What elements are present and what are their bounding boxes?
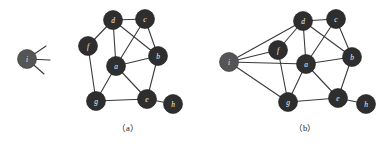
graph-node-b-b[interactable]: b (343, 48, 362, 67)
graph-node-b-h[interactable]: h (357, 95, 376, 114)
graph-node-a-g[interactable]: g (87, 92, 106, 111)
graph-node-a-f[interactable]: f (79, 37, 98, 56)
captions-layer: （a）（b） (117, 123, 316, 133)
node-circle-d[interactable] (294, 12, 313, 31)
graph-node-a-b[interactable]: b (149, 47, 168, 66)
node-circle-i[interactable] (18, 50, 37, 69)
node-circle-e[interactable] (138, 90, 157, 109)
graph-node-b-g[interactable]: g (279, 93, 298, 112)
graph-node-b-i[interactable]: i (220, 53, 239, 72)
graph-node-b-c[interactable]: c (327, 10, 346, 29)
graph-node-a-a[interactable]: a (107, 57, 126, 76)
node-circle-f[interactable] (269, 41, 288, 60)
node-circle-b[interactable] (343, 48, 362, 67)
node-circle-a[interactable] (297, 55, 316, 74)
node-circle-h[interactable] (164, 95, 183, 114)
graph-edge-b-i-g (229, 62, 288, 102)
graph-node-a-i[interactable]: i (18, 50, 37, 69)
caption-b: （b） (294, 123, 316, 133)
graph-node-a-d[interactable]: d (104, 11, 123, 30)
graph-node-a-h[interactable]: h (164, 95, 183, 114)
node-circle-g[interactable] (279, 93, 298, 112)
graph-node-b-a[interactable]: a (297, 55, 316, 74)
node-circle-d[interactable] (104, 11, 123, 30)
node-circle-c[interactable] (136, 10, 155, 29)
node-circle-b[interactable] (149, 47, 168, 66)
graph-node-a-c[interactable]: c (136, 10, 155, 29)
node-circle-g[interactable] (87, 92, 106, 111)
graph-node-a-e[interactable]: e (138, 90, 157, 109)
node-circle-i[interactable] (220, 53, 239, 72)
node-circle-a[interactable] (107, 57, 126, 76)
node-circle-c[interactable] (327, 10, 346, 29)
node-circle-f[interactable] (79, 37, 98, 56)
node-circle-h[interactable] (357, 95, 376, 114)
figure-root: ifdcbagehifdcbageh （a）（b） (0, 0, 384, 144)
graph-node-b-e[interactable]: e (329, 89, 348, 108)
graph-node-b-d[interactable]: d (294, 12, 313, 31)
graph-edge-b-i-d (229, 21, 303, 62)
node-circle-e[interactable] (329, 89, 348, 108)
graph-canvas: ifdcbagehifdcbageh （a）（b） (0, 0, 384, 144)
caption-a: （a） (117, 123, 139, 133)
graph-node-b-f[interactable]: f (269, 41, 288, 60)
graph-edge-b-i-a (229, 62, 306, 64)
